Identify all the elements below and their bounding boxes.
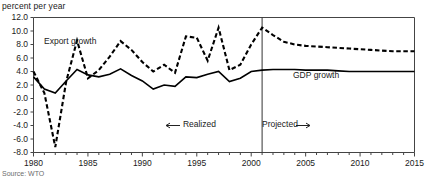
realized-region-label: ← Realized — [158, 119, 216, 129]
projected-region-label: Projected → — [262, 119, 321, 129]
source-note: Source: WTO — [2, 170, 44, 177]
series-label-gdp-growth: GDP growth — [293, 70, 339, 80]
projected-text: Projected — [262, 119, 298, 129]
realized-text: Realized — [183, 119, 216, 129]
series-label-export-growth: Export growth — [44, 36, 96, 46]
